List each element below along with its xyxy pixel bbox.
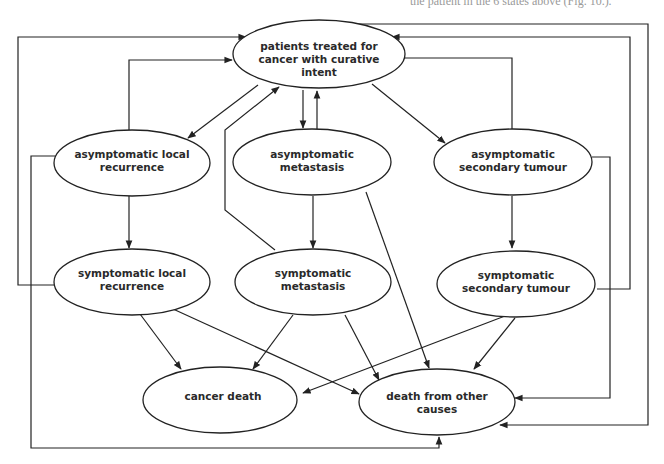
edge-other-death-to-treated: [348, 24, 648, 425]
node-asym-meta-label-2: metastasis: [280, 161, 345, 173]
node-treated: patients treated for cancer with curativ…: [233, 20, 405, 88]
node-sym-meta-label-1: symptomatic: [275, 267, 352, 279]
node-sym-meta: symptomatic metastasis: [235, 249, 391, 315]
node-other-death: death from other causes: [359, 369, 515, 435]
node-sym-second: symptomatic secondary tumour: [437, 251, 595, 317]
node-sym-second-label-1: symptomatic: [478, 269, 555, 281]
node-other-death-ellipse: [359, 369, 515, 435]
node-sym-local: symptomatic local recurrence: [54, 249, 210, 315]
node-treated-label-1: patients treated for: [260, 40, 378, 52]
node-treated-label-2: cancer with curative: [259, 53, 380, 65]
edge-sym-local-to-cancer-death: [140, 314, 181, 369]
node-asym-local-label-2: recurrence: [100, 161, 164, 173]
edge-asym-local-to-treated: [129, 60, 232, 130]
node-treated-label-3: intent: [301, 66, 337, 78]
node-sym-local-label-1: symptomatic local: [78, 267, 186, 279]
node-asym-local-label-1: asymptomatic local: [74, 148, 189, 160]
node-cancer-death: cancer death: [143, 367, 297, 433]
edge-asym-second-to-treated: [393, 58, 512, 130]
node-sym-local-label-2: recurrence: [100, 280, 164, 292]
node-asym-second-label-1: asymptomatic: [471, 148, 555, 160]
edge-treated-to-asym-second: [372, 84, 445, 143]
node-asym-local: asymptomatic local recurrence: [54, 130, 210, 196]
node-sym-second-label-2: secondary tumour: [462, 282, 571, 294]
node-asym-meta-label-1: asymptomatic: [270, 148, 354, 160]
node-cancer-death-label-1: cancer death: [184, 390, 261, 402]
node-sym-meta-label-2: metastasis: [281, 280, 346, 292]
state-transition-diagram: patients treated for cancer with curativ…: [0, 0, 664, 464]
node-other-death-label-2: causes: [417, 403, 457, 415]
node-other-death-label-1: death from other: [386, 390, 488, 402]
node-asym-second-label-2: secondary tumour: [459, 161, 568, 173]
node-asym-meta: asymptomatic metastasis: [233, 129, 391, 195]
node-asym-second: asymptomatic secondary tumour: [434, 129, 592, 195]
